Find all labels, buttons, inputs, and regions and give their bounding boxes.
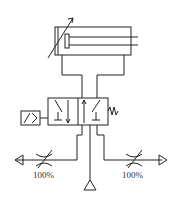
working-lines	[62, 55, 124, 98]
pneumatic-diagram: 100% 100%	[0, 0, 182, 199]
flow-control-left	[36, 150, 52, 168]
flow-control-left-label: 100%	[33, 170, 54, 180]
flow-control-right	[126, 150, 142, 168]
solenoid-valve	[21, 98, 118, 125]
supply-icon	[84, 180, 96, 190]
cylinder	[48, 18, 138, 58]
flow-control-right-label: 100%	[122, 170, 143, 180]
